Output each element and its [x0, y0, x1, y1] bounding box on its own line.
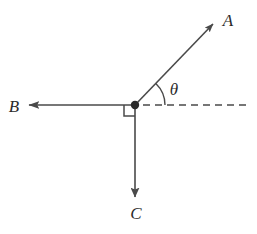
theta-angle-arc [156, 83, 165, 105]
vector-c-label: C [130, 204, 142, 223]
vector-a-label: A [222, 11, 234, 30]
theta-angle-label: θ [170, 80, 178, 99]
vector-diagram-canvas: A B C θ [0, 0, 257, 234]
vector-b-label: B [9, 97, 20, 116]
origin-vertex-dot [131, 101, 139, 109]
vector-diagram-figure: A B C θ [0, 0, 257, 234]
